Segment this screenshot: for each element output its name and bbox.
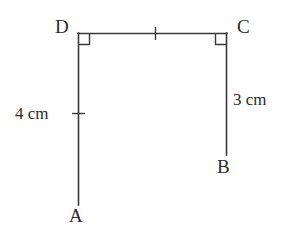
right-angle-marker-d xyxy=(79,34,90,45)
right-angle-marker-c xyxy=(216,34,227,45)
vertex-label-b: B xyxy=(217,157,230,176)
vertex-label-a: A xyxy=(69,206,83,225)
geometry-figure: D C B A 4 cm 3 cm xyxy=(0,0,306,233)
measure-label-da: 4 cm xyxy=(15,105,49,122)
vertex-label-c: C xyxy=(237,17,250,36)
vertex-label-d: D xyxy=(55,17,69,36)
measure-label-cb: 3 cm xyxy=(233,91,267,108)
